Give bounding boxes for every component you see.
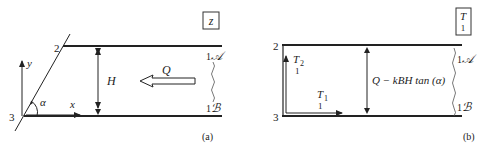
wavy-cut — [212, 62, 215, 102]
wavy-cut — [453, 48, 456, 116]
t1-under: 1 — [318, 101, 323, 111]
label-a: 𝒜 — [211, 49, 226, 63]
t-box-sub: 1 — [461, 23, 466, 33]
panel-b: T 1 T 2 1 T 1 1 2 3 Q − kBH tan (α) 1 𝒜 … — [273, 8, 477, 143]
corner-3-label: 3 — [273, 111, 279, 123]
label-b: ℬ — [462, 100, 473, 114]
t1-label: T — [317, 88, 324, 100]
t1-sub: 1 — [324, 94, 328, 103]
caption-a: (a) — [202, 131, 213, 143]
x-axis-label: x — [69, 98, 75, 110]
corner-3-label: 3 — [9, 111, 15, 123]
corner-2-label: 2 — [54, 42, 60, 54]
angle-label: α — [40, 96, 46, 108]
t2-sub: 2 — [300, 59, 304, 68]
caption-b: (b) — [463, 131, 475, 143]
panel-a: z y x α 2 3 H Q 1 𝒜 1 ℬ — [9, 12, 226, 143]
t-box-label: T — [460, 10, 467, 22]
y-axis-label: y — [26, 57, 32, 69]
label-b: ℬ — [211, 101, 222, 115]
corner-2-label: 2 — [273, 40, 279, 52]
label-a: 𝒜 — [462, 52, 477, 66]
formula-label: Q − kBH tan (α) — [372, 74, 445, 87]
diagram-canvas: z y x α 2 3 H Q 1 𝒜 1 ℬ — [0, 0, 485, 150]
height-label: H — [106, 74, 117, 88]
t2-label: T — [293, 53, 300, 65]
t2-under: 1 — [295, 66, 300, 76]
z-box-label: z — [208, 14, 214, 28]
flow-label: Q — [162, 63, 171, 77]
